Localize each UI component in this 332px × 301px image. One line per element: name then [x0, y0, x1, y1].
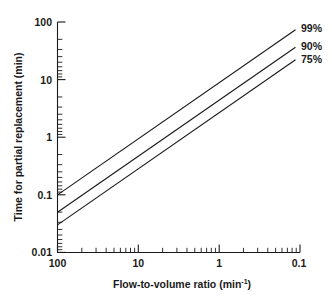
x-axis-ticks	[58, 245, 301, 253]
x-tick-label-100: 100	[49, 257, 67, 269]
chart-figure: 100 10 1 0.1 0.01 100 10 1 0.1 99% 90% 7…	[0, 0, 332, 301]
y-tick-label-10: 10	[40, 74, 52, 86]
y-tick-labels: 100 10 1 0.1 0.01	[32, 16, 53, 258]
series-group	[58, 30, 296, 225]
x-tick-label-10: 10	[132, 257, 144, 269]
y-tick-label-100: 100	[34, 16, 52, 28]
y-axis-title: Time for partial replacement (min)	[12, 52, 24, 221]
series-labels: 99% 90% 75%	[301, 22, 323, 65]
series-line-90	[58, 47, 296, 212]
y-tick-label-1: 1	[46, 131, 52, 143]
series-label-90: 90%	[301, 40, 323, 52]
x-tick-label-1: 1	[216, 257, 222, 269]
series-label-75: 75%	[301, 53, 323, 65]
x-tick-labels: 100 10 1 0.1	[49, 257, 307, 269]
x-axis-title: Flow-to-volume ratio (min-1)	[113, 278, 251, 290]
y-axis-ticks	[58, 22, 66, 252]
x-tick-label-0-1: 0.1	[292, 257, 307, 269]
series-label-99: 99%	[301, 22, 323, 34]
axes-group	[57, 22, 300, 253]
series-line-99	[58, 30, 296, 195]
y-tick-label-0-1: 0.1	[37, 189, 52, 201]
log-log-line-chart: 100 10 1 0.1 0.01 100 10 1 0.1 99% 90% 7…	[0, 0, 332, 301]
series-line-75	[58, 60, 296, 225]
x-axis-title-main: Flow-to-volume ratio (min	[113, 278, 241, 290]
x-axis-title-close: )	[248, 278, 252, 290]
